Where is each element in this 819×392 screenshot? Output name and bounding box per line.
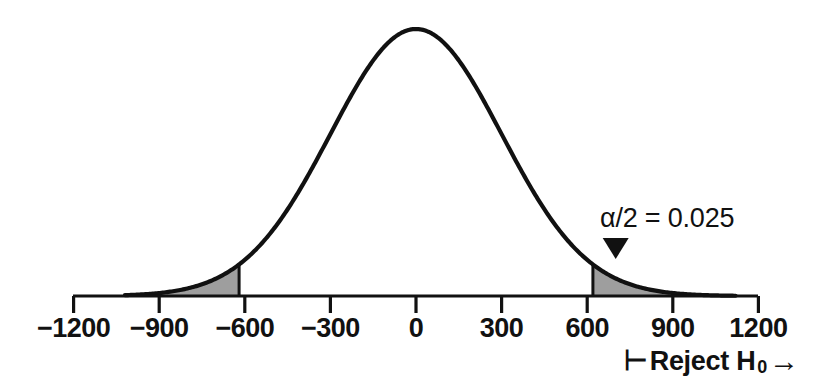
region-start-bar-icon: ⊢ [624, 348, 648, 375]
x-axis-tick-label: 900 [651, 313, 695, 344]
down-triangle-marker [603, 238, 629, 259]
alpha-area-label: α/2 = 0.025 [600, 203, 734, 234]
null-hypothesis-subscript: 0 [757, 357, 767, 378]
reject-region-label: ⊢ Reject H 0 → [624, 346, 799, 377]
x-axis-tick-label: 1200 [729, 313, 787, 344]
normal-distribution-figure: −1200−900−600−30003006009001200 α/2 = 0.… [0, 0, 819, 392]
x-axis-tick-label: −1200 [37, 313, 110, 344]
reject-label-text: Reject H [650, 346, 756, 377]
right-arrow-icon: → [769, 346, 799, 376]
normal-curve-path [125, 29, 736, 296]
x-axis-tick-label: 0 [409, 313, 424, 344]
x-axis-tick-label: −600 [215, 313, 274, 344]
x-axis-tick-label: −300 [301, 313, 360, 344]
x-axis-ticks [74, 296, 759, 313]
x-axis-tick-label: 600 [565, 313, 609, 344]
x-axis-tick-label: 300 [480, 313, 524, 344]
x-axis-tick-label: −900 [130, 313, 189, 344]
